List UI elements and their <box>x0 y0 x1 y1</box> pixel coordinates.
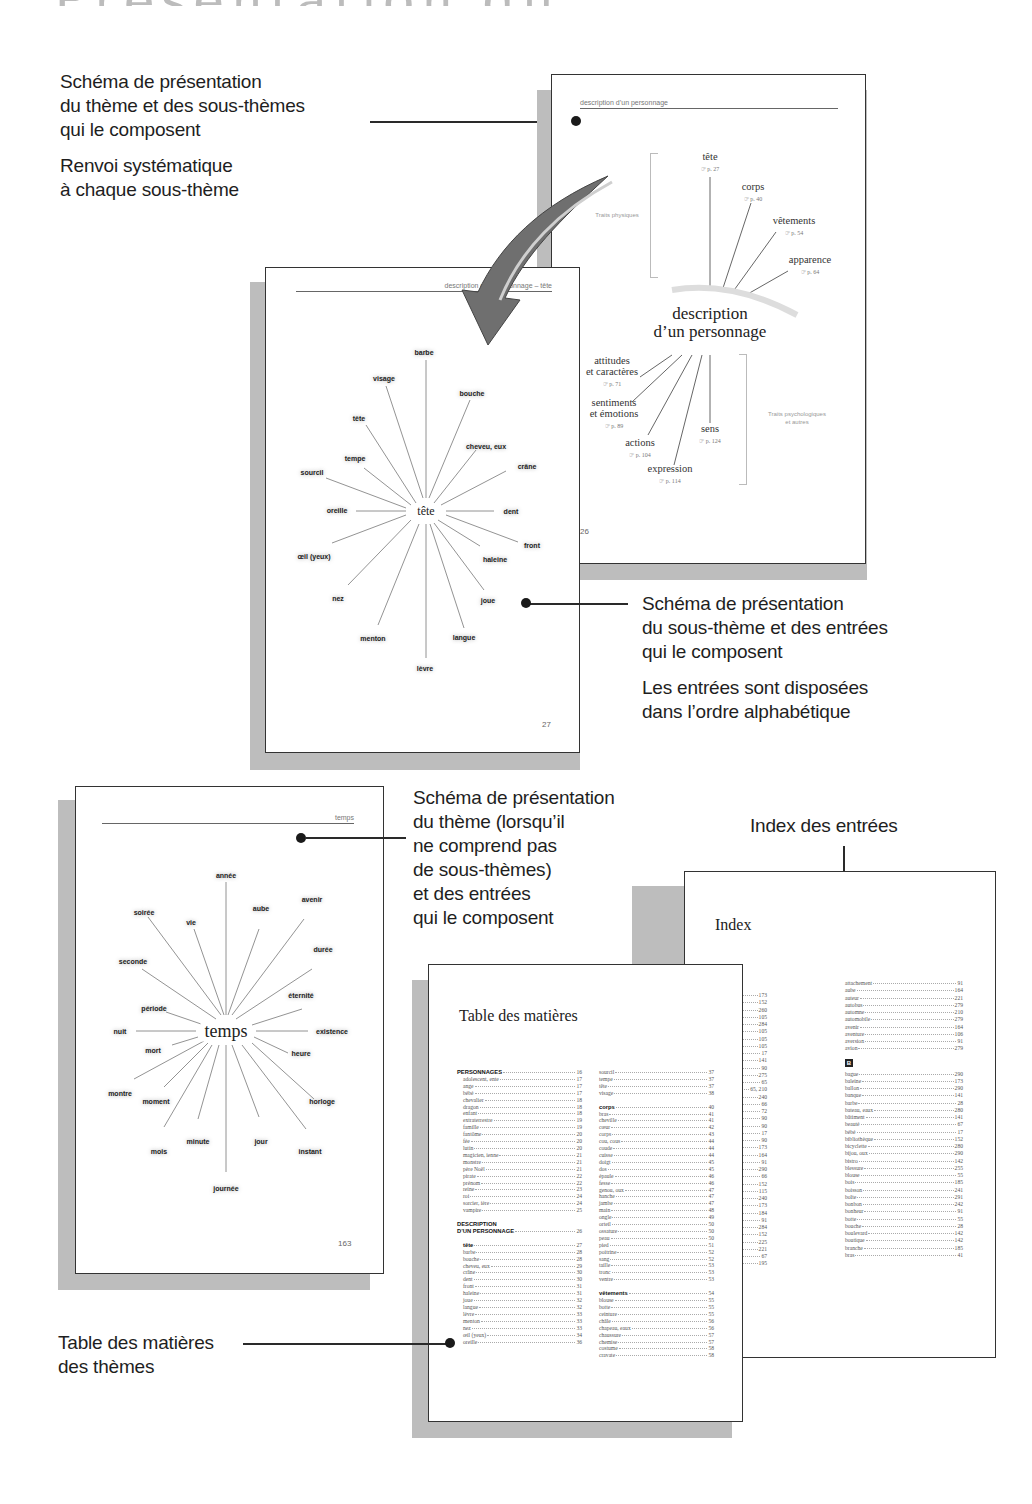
list-item[interactable]: taille53 <box>599 1262 714 1269</box>
list-item[interactable]: dragon18 <box>457 1104 582 1111</box>
list-item[interactable]: prénom22 <box>457 1180 582 1187</box>
list-item[interactable]: fesse46 <box>599 1180 714 1187</box>
list-item[interactable]: bonbon242 <box>845 1201 963 1208</box>
list-item[interactable]: aversion91 <box>845 1038 963 1045</box>
list-item[interactable]: genou, oux47 <box>599 1187 714 1194</box>
entry-nuit[interactable]: nuit <box>114 1028 127 1035</box>
list-item[interactable]: bouche28 <box>845 1223 963 1230</box>
subtheme-sens[interactable]: sens☞ p. 124 <box>699 423 721 447</box>
list-item[interactable]: cheville41 <box>599 1117 714 1124</box>
list-item[interactable]: boutique142 <box>845 1237 963 1244</box>
list-item[interactable]: avenir164 <box>845 1024 963 1031</box>
entry-crane[interactable]: crâne <box>518 463 537 470</box>
subtheme-vetements[interactable]: vêtements☞ p. 54 <box>773 215 816 239</box>
list-item[interactable]: main48 <box>599 1207 714 1214</box>
list-item[interactable]: extraterrestre19 <box>457 1117 582 1124</box>
list-item[interactable]: famille19 <box>457 1124 582 1131</box>
list-item[interactable]: père Noël21 <box>457 1166 582 1173</box>
list-item[interactable]: vampire25 <box>457 1207 582 1214</box>
entry-mort[interactable]: mort <box>145 1047 161 1054</box>
list-item[interactable]: bâtiment141 <box>845 1114 963 1121</box>
list-item[interactable]: cheveu, eux29 <box>457 1263 582 1270</box>
list-item[interactable]: chapeau, eaux56 <box>599 1325 714 1332</box>
section-heading-row[interactable]: D’UN PERSONNAGE26 <box>457 1228 582 1235</box>
list-item[interactable]: enfant18 <box>457 1110 582 1117</box>
entry-joue[interactable]: joue <box>481 597 495 604</box>
list-item[interactable]: boisson241 <box>845 1187 963 1194</box>
list-item[interactable]: reine23 <box>457 1186 582 1193</box>
list-item[interactable]: bicyclette280 <box>845 1143 963 1150</box>
list-item[interactable]: peau50 <box>599 1235 714 1242</box>
subtheme-sentiments[interactable]: sentiments et émotions☞ p. 89 <box>590 397 639 432</box>
entry-haleine[interactable]: haleine <box>483 556 507 563</box>
subtheme-actions[interactable]: actions☞ p. 104 <box>625 437 655 461</box>
list-item[interactable]: bébé17 <box>457 1090 582 1097</box>
list-item[interactable]: cou, cous44 <box>599 1138 714 1145</box>
list-item[interactable]: pied51 <box>599 1242 714 1249</box>
entry-tempe[interactable]: tempe <box>345 455 366 462</box>
section-heading-row[interactable]: corps40 <box>599 1104 714 1111</box>
list-item[interactable]: sourcil37 <box>599 1069 714 1076</box>
entry-nez[interactable]: nez <box>332 595 344 602</box>
list-item[interactable]: œil (yeux)34 <box>457 1332 582 1339</box>
list-item[interactable]: blouse55 <box>845 1172 963 1179</box>
entry-montre[interactable]: montre <box>108 1090 132 1097</box>
list-item[interactable]: barbe28 <box>457 1249 582 1256</box>
list-item[interactable]: boîte291 <box>845 1194 963 1201</box>
list-item[interactable]: tronc53 <box>599 1269 714 1276</box>
list-item[interactable]: orteil50 <box>599 1221 714 1228</box>
list-item[interactable]: menton33 <box>457 1318 582 1325</box>
list-item[interactable]: haleine31 <box>457 1290 582 1297</box>
list-item[interactable]: ballon290 <box>845 1085 963 1092</box>
entry-periode[interactable]: période <box>141 1005 166 1012</box>
list-item[interactable]: poitrine52 <box>599 1249 714 1256</box>
list-item[interactable]: nez33 <box>457 1325 582 1332</box>
section-heading-row[interactable]: tête27 <box>457 1242 582 1249</box>
entry-soiree[interactable]: soirée <box>134 909 155 916</box>
entry-dent[interactable]: dent <box>504 508 519 515</box>
subtheme-attitudes[interactable]: attitudes et caractères☞ p. 71 <box>586 355 638 390</box>
subtheme-tete[interactable]: tête☞ p. 27 <box>701 151 720 175</box>
list-item[interactable]: beauté67 <box>845 1121 963 1128</box>
entry-oreille[interactable]: oreille <box>327 507 348 514</box>
entry-mois[interactable]: mois <box>151 1148 167 1155</box>
list-item[interactable]: lutin20 <box>457 1145 582 1152</box>
list-item[interactable]: bois185 <box>845 1179 963 1186</box>
entry-cheveu[interactable]: cheveu, eux <box>466 443 506 450</box>
list-item[interactable]: barbe28 <box>845 1100 963 1107</box>
entry-seconde[interactable]: seconde <box>119 958 147 965</box>
list-item[interactable]: cravate58 <box>599 1352 714 1359</box>
entry-jour[interactable]: jour <box>254 1138 267 1145</box>
list-item[interactable]: joue32 <box>457 1297 582 1304</box>
list-item[interactable]: botte55 <box>599 1304 714 1311</box>
list-item[interactable]: bateau, eaux280 <box>845 1107 963 1114</box>
list-item[interactable]: oreille36 <box>457 1339 582 1346</box>
list-item[interactable]: automobile279 <box>845 1016 963 1023</box>
list-item[interactable]: autobus279 <box>845 1002 963 1009</box>
section-heading-row[interactable]: vêtements54 <box>599 1290 714 1297</box>
list-item[interactable]: bébé17 <box>845 1129 963 1136</box>
list-item[interactable]: attachement91 <box>845 980 963 987</box>
list-item[interactable]: chevalier18 <box>457 1097 582 1104</box>
list-item[interactable]: monstre21 <box>457 1159 582 1166</box>
list-item[interactable]: bistro142 <box>845 1158 963 1165</box>
list-item[interactable]: adolescent, ente17 <box>457 1076 582 1083</box>
list-item[interactable]: avion279 <box>845 1045 963 1052</box>
entry-oeil[interactable]: œil (yeux) <box>297 553 330 560</box>
entry-sourcil[interactable]: sourcil <box>301 469 324 476</box>
list-item[interactable]: crâne30 <box>457 1269 582 1276</box>
list-item[interactable]: banque141 <box>845 1092 963 1099</box>
section-heading-row[interactable]: PERSONNAGES16 <box>457 1069 582 1076</box>
list-item[interactable]: bonheur91 <box>845 1208 963 1215</box>
list-item[interactable]: châle56 <box>599 1318 714 1325</box>
list-item[interactable]: bras41 <box>845 1252 963 1259</box>
list-item[interactable]: ceinture55 <box>599 1311 714 1318</box>
list-item[interactable]: fée20 <box>457 1138 582 1145</box>
list-item[interactable]: coude44 <box>599 1145 714 1152</box>
list-item[interactable]: ongle49 <box>599 1214 714 1221</box>
list-item[interactable]: dos45 <box>599 1166 714 1173</box>
entry-journee[interactable]: journée <box>213 1185 238 1192</box>
subtheme-expression[interactable]: expression☞ p. 114 <box>648 463 693 487</box>
list-item[interactable]: front31 <box>457 1283 582 1290</box>
entry-existence[interactable]: existence <box>316 1028 348 1035</box>
